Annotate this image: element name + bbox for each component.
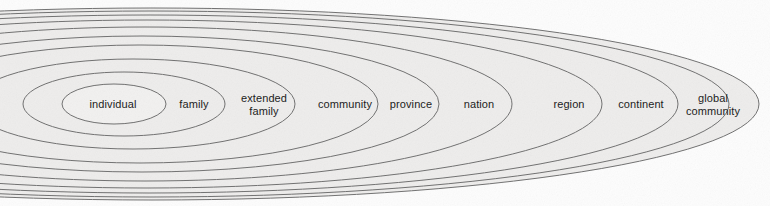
- ring-ellipse-1[interactable]: [62, 84, 166, 124]
- rings-group: [0, 8, 759, 200]
- nested-ellipses-diagram: individualfamilyextended familycommunity…: [0, 0, 770, 206]
- ellipse-rings-svg: [0, 0, 770, 206]
